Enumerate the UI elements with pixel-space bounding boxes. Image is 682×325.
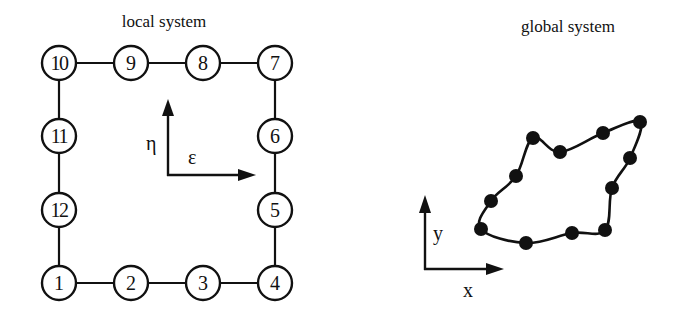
- local-axes: η ε: [146, 99, 256, 181]
- global-system-title: global system: [521, 17, 615, 36]
- node-label: 3: [198, 272, 208, 294]
- global-node-12: [484, 194, 498, 208]
- global-node-2: [519, 236, 533, 250]
- diagram-canvas: local system 123456789101112 η ε global …: [0, 0, 682, 325]
- local-node-1: 1: [42, 266, 76, 300]
- global-axes: y x: [419, 195, 504, 301]
- local-node-3: 3: [186, 266, 220, 300]
- node-label: 7: [270, 52, 280, 74]
- global-system: global system y x: [419, 17, 647, 301]
- global-element-nodes: [474, 115, 647, 250]
- global-node-10: [526, 131, 540, 145]
- node-label: 10: [51, 52, 70, 74]
- node-label: 12: [51, 199, 69, 221]
- local-system: local system 123456789101112 η ε: [42, 12, 292, 300]
- local-node-5: 5: [258, 193, 292, 227]
- epsilon-arrowhead-icon: [238, 169, 256, 181]
- global-node-1: [474, 222, 488, 236]
- eta-axis-label: η: [146, 132, 156, 155]
- node-label: 9: [126, 52, 136, 74]
- node-label: 4: [270, 272, 280, 294]
- y-axis-label: y: [433, 222, 443, 245]
- local-node-6: 6: [258, 119, 292, 153]
- node-label: 6: [270, 125, 280, 147]
- local-node-9: 9: [114, 46, 148, 80]
- node-label: 5: [270, 199, 280, 221]
- epsilon-axis-label: ε: [188, 146, 196, 168]
- node-label: 2: [126, 272, 136, 294]
- x-axis-label: x: [463, 279, 473, 301]
- local-node-10: 10: [42, 46, 76, 80]
- global-node-4: [598, 223, 612, 237]
- global-node-6: [623, 151, 637, 165]
- local-system-title: local system: [122, 12, 207, 31]
- global-node-9: [553, 145, 567, 159]
- local-node-12: 12: [42, 193, 76, 227]
- global-node-11: [509, 169, 523, 183]
- node-label: 11: [51, 125, 68, 147]
- local-node-7: 7: [258, 46, 292, 80]
- global-node-8: [596, 126, 610, 140]
- global-node-5: [605, 181, 619, 195]
- global-node-3: [565, 226, 579, 240]
- eta-arrowhead-icon: [162, 99, 174, 116]
- local-node-4: 4: [258, 266, 292, 300]
- y-arrowhead-icon: [419, 195, 431, 213]
- global-element-boundary: [479, 121, 641, 243]
- x-arrowhead-icon: [486, 263, 504, 275]
- global-node-7: [633, 115, 647, 129]
- local-node-2: 2: [114, 266, 148, 300]
- local-node-8: 8: [186, 46, 220, 80]
- node-label: 1: [54, 272, 64, 294]
- node-label: 8: [198, 52, 208, 74]
- local-node-11: 11: [42, 119, 76, 153]
